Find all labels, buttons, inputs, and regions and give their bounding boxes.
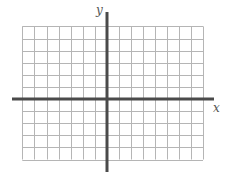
y-axis-label: y (95, 3, 103, 17)
grid-lines (22, 26, 203, 160)
coordinate-plane: x y (0, 0, 228, 182)
x-axis-label: x (213, 101, 220, 115)
